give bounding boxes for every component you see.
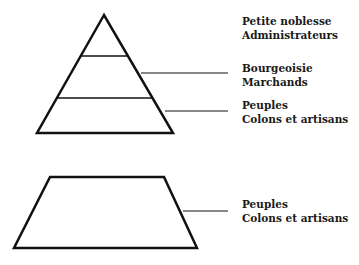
label-line: Peuples	[242, 197, 348, 211]
label-line: Colons et artisans	[242, 211, 348, 225]
pyramid-shape	[37, 15, 173, 133]
label-peuples-top: Peuples Colons et artisans	[242, 98, 348, 126]
trapezoid-shape	[14, 177, 197, 248]
label-line: Petite noblesse	[242, 14, 338, 28]
label-peuples-bottom: Peuples Colons et artisans	[242, 197, 348, 225]
label-line: Administrateurs	[242, 28, 338, 42]
label-bourgeoisie: Bourgeoisie Marchands	[242, 61, 313, 89]
label-line: Peuples	[242, 98, 348, 112]
social-structure-diagram: Petite noblesse Administrateurs Bourgeoi…	[0, 0, 359, 265]
label-line: Bourgeoisie	[242, 61, 313, 75]
label-line: Marchands	[242, 75, 313, 89]
label-line: Colons et artisans	[242, 112, 348, 126]
label-petite-noblesse: Petite noblesse Administrateurs	[242, 14, 338, 42]
